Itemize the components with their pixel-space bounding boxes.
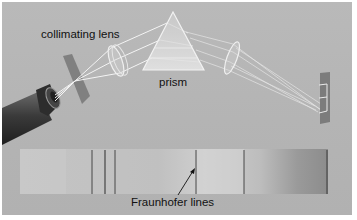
spectrum-strip (20, 149, 328, 194)
light-source-tube (2, 84, 63, 145)
screen-plate (319, 72, 330, 124)
prism (143, 12, 204, 70)
collimating-lens (105, 43, 131, 78)
collimating-lens-label: collimating lens (41, 29, 120, 41)
dispersed-rays (186, 32, 322, 112)
focusing-lens (221, 40, 242, 75)
fraunhofer-lines-label: Fraunhofer lines (131, 197, 214, 209)
spectroscope-photo: collimating lens prism Fraunhofer lines (2, 2, 352, 215)
prism-label: prism (159, 77, 187, 89)
